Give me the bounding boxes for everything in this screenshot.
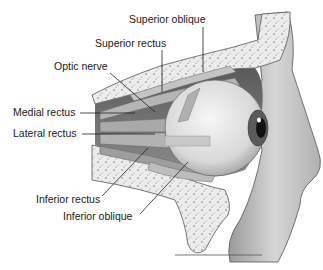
extraocular-muscles-diagram: Superior oblique Superior rectus Optic n… (0, 0, 323, 270)
label-medial-rectus: Medial rectus (13, 106, 75, 118)
insertion-band-lateral (165, 136, 210, 146)
label-superior-rectus: Superior rectus (95, 37, 166, 49)
label-superior-oblique: Superior oblique (129, 13, 205, 25)
label-lateral-rectus: Lateral rectus (13, 127, 77, 139)
eye-highlight (257, 118, 261, 123)
label-inferior-rectus: Inferior rectus (36, 193, 100, 205)
label-optic-nerve: Optic nerve (54, 60, 108, 72)
label-inferior-oblique: Inferior oblique (63, 210, 132, 222)
